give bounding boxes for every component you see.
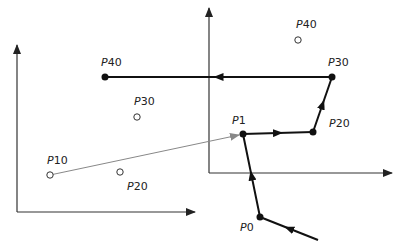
gray-arrow xyxy=(50,135,239,175)
open-point-label: P20 xyxy=(127,180,148,193)
open-point-label: P30 xyxy=(134,95,155,108)
filled-point-label: P30 xyxy=(328,56,349,69)
path-segment xyxy=(243,132,313,134)
open-point-label: P40 xyxy=(296,18,317,31)
filled-point-label: P40 xyxy=(101,56,122,69)
axes-group xyxy=(17,8,392,212)
open-point-marker xyxy=(47,172,53,178)
path-segment xyxy=(260,217,318,240)
open-point-label: P10 xyxy=(47,154,68,167)
filled-point-label: P0 xyxy=(240,221,254,234)
filled-point-marker xyxy=(310,129,317,136)
filled-point-label: P1 xyxy=(232,114,246,127)
open-point-marker xyxy=(117,169,123,175)
filled-point-label: P20 xyxy=(329,117,350,130)
path-segment xyxy=(243,134,260,217)
filled-point-marker xyxy=(257,214,264,221)
filled-point-marker xyxy=(329,74,336,81)
open-point-marker xyxy=(295,37,301,43)
transform-diagram: P10P20P30P40 P0P1P20P30P40 xyxy=(0,0,395,250)
open-point-marker xyxy=(134,114,140,120)
filled-point-marker xyxy=(240,131,247,138)
transformed-points: P0P1P20P30P40 xyxy=(101,56,350,234)
filled-point-marker xyxy=(102,74,109,81)
correspondence-arrow xyxy=(50,135,239,175)
